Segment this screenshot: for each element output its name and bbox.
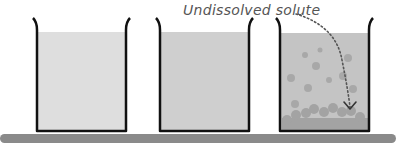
beaker-1 [33, 18, 130, 131]
bench-surface [0, 134, 396, 143]
diagram [0, 0, 399, 160]
undissolved-solute-label: Undissolved solute [183, 2, 320, 18]
beaker-1-liquid [37, 32, 126, 131]
beaker-2 [156, 18, 253, 131]
beaker-3 [276, 18, 373, 131]
beaker-2-liquid [160, 32, 249, 131]
